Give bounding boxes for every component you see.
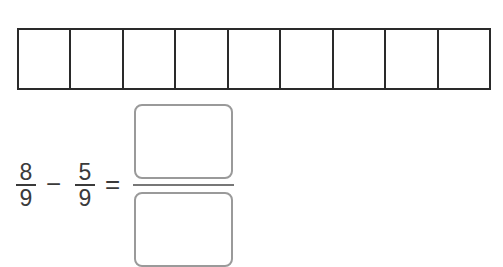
bar-cell-6[interactable] <box>281 30 333 88</box>
minus-operator: − <box>46 171 61 197</box>
second-denominator: 9 <box>75 188 95 209</box>
bar-cell-3[interactable] <box>124 30 176 88</box>
answer-numerator-box[interactable] <box>134 104 233 179</box>
bar-cell-4[interactable] <box>176 30 228 88</box>
bar-cell-7[interactable] <box>334 30 386 88</box>
bar-cell-5[interactable] <box>229 30 281 88</box>
bar-cell-1[interactable] <box>19 30 71 88</box>
first-numerator: 8 <box>16 162 36 183</box>
fraction-bar <box>17 28 491 90</box>
bar-cell-8[interactable] <box>386 30 438 88</box>
answer-fraction-line <box>133 184 234 186</box>
bar-cell-9[interactable] <box>439 30 489 88</box>
bar-cell-2[interactable] <box>71 30 123 88</box>
first-denominator: 9 <box>16 188 36 209</box>
second-fraction: 5 9 <box>75 162 95 209</box>
equals-sign: = <box>105 171 120 197</box>
first-fraction: 8 9 <box>16 162 36 209</box>
second-numerator: 5 <box>75 162 95 183</box>
answer-denominator-box[interactable] <box>134 192 233 267</box>
